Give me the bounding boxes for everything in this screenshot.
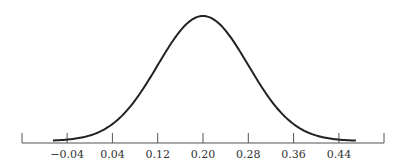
density-curve bbox=[53, 16, 356, 141]
x-tick-label: 0.12 bbox=[145, 148, 170, 161]
density-chart: −0.040.040.120.200.280.360.44 bbox=[0, 0, 410, 165]
x-tick-label: 0.28 bbox=[236, 148, 261, 161]
x-tick-label: 0.44 bbox=[327, 148, 352, 161]
x-tick-label: −0.04 bbox=[50, 148, 84, 161]
x-tick-label: 0.36 bbox=[281, 148, 306, 161]
x-axis-ticks: −0.040.040.120.200.280.360.44 bbox=[50, 133, 351, 161]
x-tick-label: 0.04 bbox=[100, 148, 125, 161]
x-axis: −0.040.040.120.200.280.360.44 bbox=[22, 133, 384, 161]
x-tick-label: 0.20 bbox=[191, 148, 216, 161]
